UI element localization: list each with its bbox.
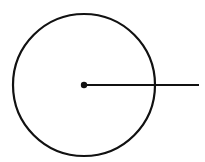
center-point <box>81 82 87 88</box>
diagram-canvas <box>0 0 205 162</box>
